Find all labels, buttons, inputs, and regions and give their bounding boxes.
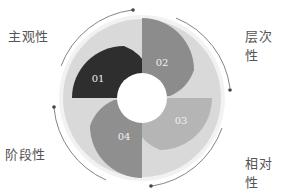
label-subjectivity: 主观性 [8, 26, 49, 45]
label-hierarchy: 层次性 [245, 26, 285, 64]
arrow-head-icon [149, 184, 153, 188]
segment-02-number: 02 [156, 57, 169, 68]
label-relativity: 相对性 [245, 153, 285, 191]
arrow-head-icon [131, 8, 135, 12]
segment-03-number: 03 [175, 115, 188, 126]
center-hole [117, 73, 167, 123]
segment-01-number: 01 [92, 73, 105, 84]
arrow-head-icon [228, 88, 232, 92]
segment-04-number: 04 [118, 131, 131, 142]
arrow-head-icon [52, 105, 56, 109]
label-stages: 阶段性 [5, 144, 46, 163]
